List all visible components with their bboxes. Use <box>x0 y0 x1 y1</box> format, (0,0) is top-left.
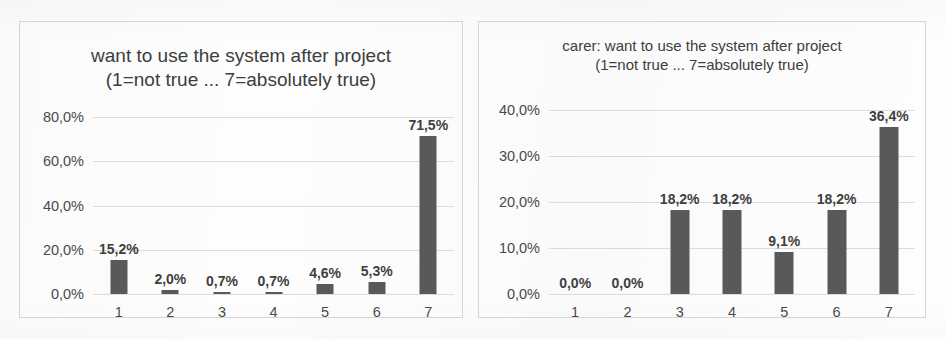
chart-title-right: carer: want to use the system after proj… <box>479 36 925 74</box>
bar <box>879 127 898 294</box>
x-axis-category-label: 3 <box>654 304 706 320</box>
bar-value-label: 0,7% <box>206 273 238 289</box>
x-axis-category-label: 1 <box>549 304 601 320</box>
x-axis-category-label: 7 <box>863 304 915 320</box>
bar-value-label: 71,5% <box>408 117 448 133</box>
bar-value-label: 9,1% <box>768 233 800 249</box>
y-axis-tick-label: 10,0% <box>499 240 540 256</box>
x-axis-category-label: 4 <box>706 304 758 320</box>
bar-slot: 18,2% <box>654 110 706 294</box>
bar-chart-overall: want to use the system after project (1=… <box>20 22 462 317</box>
bar-slot: 0,7% <box>196 117 248 294</box>
chart-panel-left: want to use the system after project (1=… <box>19 21 463 318</box>
y-axis-tick-label: 80,0% <box>43 109 84 125</box>
x-axis-category-label: 5 <box>758 304 810 320</box>
bar-slot: 18,2% <box>810 110 862 294</box>
bar-slot: 36,4% <box>863 110 915 294</box>
bar-value-label: 0,7% <box>258 273 290 289</box>
bar <box>110 260 127 294</box>
bar-value-label: 0,0% <box>611 275 643 291</box>
bar <box>827 210 846 294</box>
plot-area-left: 0,0%20,0%40,0%60,0%80,0% 15,2%2,0%0,7%0,… <box>93 117 454 294</box>
gridline <box>549 294 915 295</box>
bar-slot: 15,2% <box>93 117 145 294</box>
bar-slot: 0,7% <box>248 117 300 294</box>
bar-value-label: 36,4% <box>869 108 909 124</box>
bar-slot: 71,5% <box>402 117 454 294</box>
bar-value-label: 0,0% <box>559 275 591 291</box>
x-axis-category-label: 4 <box>248 304 300 320</box>
bar-value-label: 15,2% <box>99 241 139 257</box>
bar-series-left: 15,2%2,0%0,7%0,7%4,6%5,3%71,5% <box>93 117 454 294</box>
bar-value-label: 4,6% <box>309 265 341 281</box>
bar-slot: 9,1% <box>758 110 810 294</box>
bar <box>162 290 179 294</box>
x-axis-category-label: 3 <box>196 304 248 320</box>
x-axis-category-label: 5 <box>299 304 351 320</box>
plot-area-right: 0,0%10,0%20,0%30,0%40,0% 0,0%0,0%18,2%18… <box>549 110 915 294</box>
y-axis-tick-label: 20,0% <box>43 242 84 258</box>
bar-slot: 4,6% <box>299 117 351 294</box>
gridline <box>93 294 454 295</box>
bar-value-label: 5,3% <box>361 263 393 279</box>
chart-title-left: want to use the system after project (1=… <box>20 44 462 93</box>
y-axis-tick-label: 40,0% <box>43 198 84 214</box>
x-axis-category-label: 6 <box>351 304 403 320</box>
bar <box>317 284 334 294</box>
bar-slot: 5,3% <box>351 117 403 294</box>
chart-panel-right: carer: want to use the system after proj… <box>478 21 926 318</box>
bar-slot: 18,2% <box>706 110 758 294</box>
bar-series-right: 0,0%0,0%18,2%18,2%9,1%18,2%36,4% <box>549 110 915 294</box>
chart-title-line2: (1=not true ... 7=absolutely true) <box>20 68 462 92</box>
x-axis-labels-left: 1234567 <box>93 304 454 320</box>
bar-chart-carer: carer: want to use the system after proj… <box>479 22 925 317</box>
bar-slot: 0,0% <box>601 110 653 294</box>
bar <box>722 210 741 294</box>
chart-title-line1: want to use the system after project <box>91 45 391 66</box>
y-axis-tick-label: 60,0% <box>43 153 84 169</box>
y-axis-tick-label: 30,0% <box>499 148 540 164</box>
x-axis-labels-right: 1234567 <box>549 304 915 320</box>
bar <box>775 252 794 294</box>
y-axis-tick-label: 40,0% <box>499 102 540 118</box>
x-axis-category-label: 1 <box>93 304 145 320</box>
bar-value-label: 18,2% <box>817 191 857 207</box>
bar <box>368 282 385 294</box>
bar-slot: 0,0% <box>549 110 601 294</box>
bar <box>670 210 689 294</box>
x-axis-category-label: 7 <box>402 304 454 320</box>
bar-slot: 2,0% <box>145 117 197 294</box>
figure-page: want to use the system after project (1=… <box>0 0 945 339</box>
x-axis-category-label: 2 <box>145 304 197 320</box>
chart-title-line1: carer: want to use the system after proj… <box>562 37 841 54</box>
y-axis-tick-label: 0,0% <box>51 286 84 302</box>
bar <box>420 136 437 294</box>
x-axis-category-label: 6 <box>810 304 862 320</box>
y-axis-tick-label: 0,0% <box>507 286 540 302</box>
y-axis-tick-label: 20,0% <box>499 194 540 210</box>
chart-title-line2: (1=not true ... 7=absolutely true) <box>479 55 925 74</box>
bar <box>213 292 230 294</box>
bar-value-label: 2,0% <box>154 271 186 287</box>
bar <box>265 292 282 294</box>
bar-value-label: 18,2% <box>660 191 700 207</box>
x-axis-category-label: 2 <box>601 304 653 320</box>
bar-value-label: 18,2% <box>712 191 752 207</box>
